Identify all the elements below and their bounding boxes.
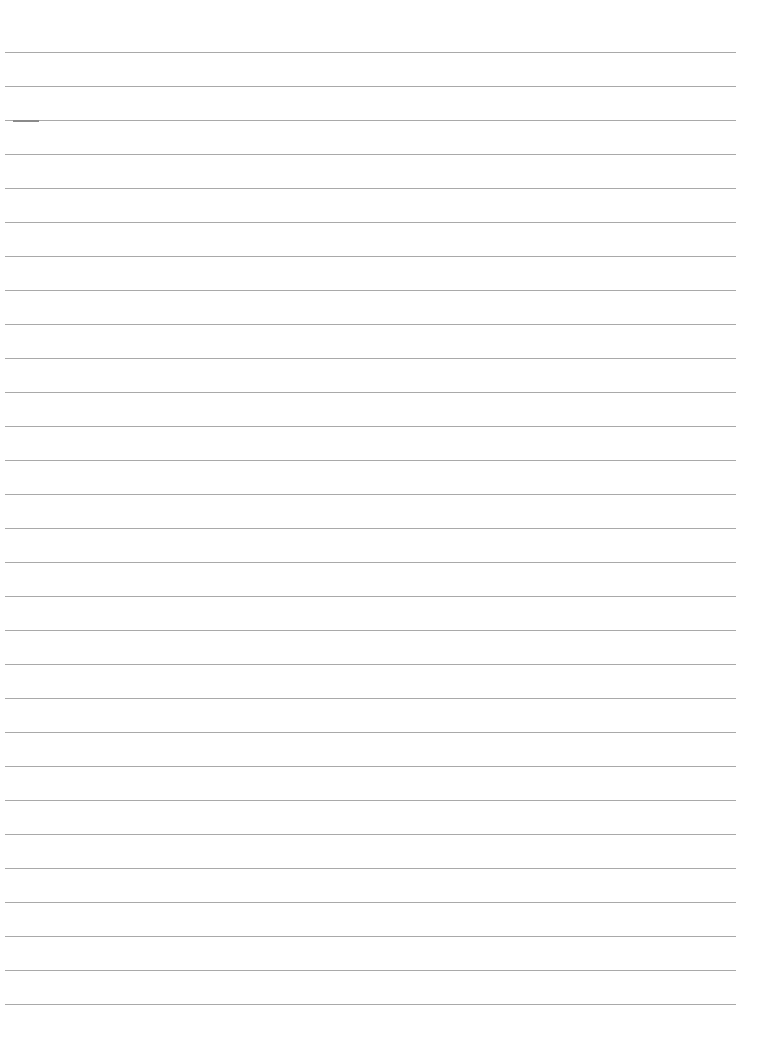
ruled-line xyxy=(5,188,736,189)
ruled-line xyxy=(5,562,736,563)
ruled-line xyxy=(5,732,736,733)
ruled-line xyxy=(5,834,736,835)
ruled-line xyxy=(5,154,736,155)
ruled-line xyxy=(5,528,736,529)
ruled-line xyxy=(5,494,736,495)
ruled-line xyxy=(5,86,736,87)
ruled-line xyxy=(5,902,736,903)
ruled-line xyxy=(5,256,736,257)
ruled-line xyxy=(5,52,736,53)
ruled-line xyxy=(5,630,736,631)
ruled-line xyxy=(5,120,736,121)
ruled-line xyxy=(5,358,736,359)
ruled-line xyxy=(5,324,736,325)
ruled-line xyxy=(5,664,736,665)
ruled-line xyxy=(5,868,736,869)
ruled-line xyxy=(5,222,736,223)
ruled-line xyxy=(5,970,736,971)
ruled-line xyxy=(5,596,736,597)
ruled-line xyxy=(5,936,736,937)
ruled-line xyxy=(5,698,736,699)
ruled-line xyxy=(5,800,736,801)
ruled-line xyxy=(5,460,736,461)
ruled-line xyxy=(5,392,736,393)
ruled-line xyxy=(5,290,736,291)
ruled-line xyxy=(5,766,736,767)
ruled-paper-page xyxy=(0,0,761,1050)
ruled-line xyxy=(5,426,736,427)
ruled-line xyxy=(5,1004,736,1005)
